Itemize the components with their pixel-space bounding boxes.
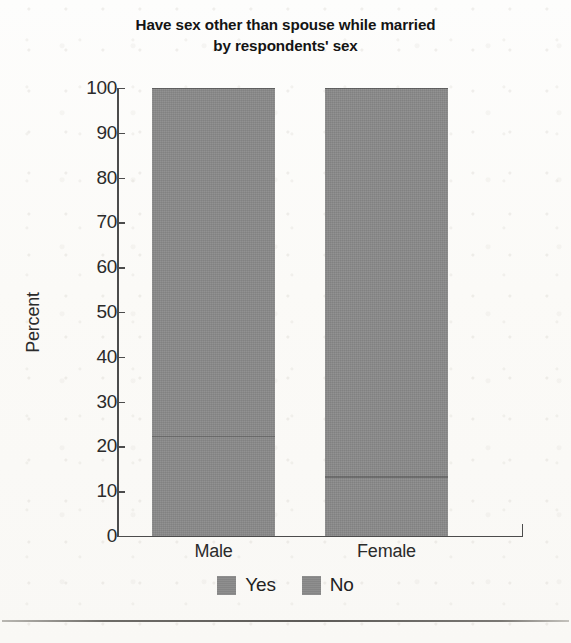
page-bottom-rule bbox=[2, 620, 569, 622]
legend-swatch-no-icon bbox=[302, 576, 321, 595]
bar-female[interactable] bbox=[325, 88, 448, 536]
y-tick-mark-50 bbox=[117, 312, 125, 313]
chart-title-line-1: Have sex other than spouse while married bbox=[136, 16, 436, 33]
y-tick-label-90: 90 bbox=[59, 122, 117, 144]
legend-swatch-yes-icon bbox=[217, 576, 236, 595]
bar-male[interactable] bbox=[152, 88, 275, 536]
legend-label-yes: Yes bbox=[245, 574, 275, 596]
y-tick-mark-60 bbox=[117, 267, 125, 268]
y-tick-label-70: 70 bbox=[59, 211, 117, 233]
y-tick-label-50: 50 bbox=[59, 301, 117, 323]
x-axis-end-tick bbox=[522, 524, 524, 536]
y-tick-label-0: 0 bbox=[59, 525, 117, 547]
y-tick-label-40: 40 bbox=[59, 346, 117, 368]
y-axis-title: Percent bbox=[23, 253, 44, 393]
bar-male-segment-yes[interactable] bbox=[152, 437, 275, 536]
x-category-label-female: Female bbox=[325, 541, 448, 562]
legend-label-no: No bbox=[330, 574, 354, 596]
y-tick-label-30: 30 bbox=[59, 391, 117, 413]
y-tick-mark-100 bbox=[117, 88, 125, 89]
x-category-label-male: Male bbox=[152, 541, 275, 562]
y-tick-mark-90 bbox=[117, 133, 125, 134]
stacked-bar-chart: Have sex other than spouse while married… bbox=[0, 0, 571, 643]
legend-item-yes[interactable]: Yes bbox=[217, 574, 275, 596]
bar-male-segment-divider bbox=[152, 436, 275, 438]
bar-female-top-edge bbox=[325, 88, 448, 89]
y-tick-label-20: 20 bbox=[59, 435, 117, 457]
y-tick-mark-10 bbox=[117, 491, 125, 492]
bar-female-segment-no[interactable] bbox=[325, 88, 448, 536]
y-tick-label-80: 80 bbox=[59, 167, 117, 189]
chart-title: Have sex other than spouse while married… bbox=[0, 14, 571, 56]
chart-title-line-2: by respondents' sex bbox=[0, 35, 571, 56]
y-tick-label-10: 10 bbox=[59, 480, 117, 502]
bar-female-segment-yes[interactable] bbox=[325, 478, 448, 536]
bar-female-segment-divider bbox=[325, 476, 448, 478]
chart-legend: Yes No bbox=[0, 574, 571, 596]
y-tick-mark-70 bbox=[117, 222, 125, 223]
legend-item-no[interactable]: No bbox=[302, 574, 354, 596]
y-tick-label-100: 100 bbox=[59, 77, 117, 99]
y-tick-mark-80 bbox=[117, 178, 125, 179]
bar-male-top-edge bbox=[152, 88, 275, 89]
y-tick-mark-20 bbox=[117, 446, 125, 447]
y-tick-mark-40 bbox=[117, 357, 125, 358]
y-tick-mark-30 bbox=[117, 402, 125, 403]
y-tick-label-60: 60 bbox=[59, 256, 117, 278]
figure-page-background: Have sex other than spouse while married… bbox=[0, 0, 571, 643]
